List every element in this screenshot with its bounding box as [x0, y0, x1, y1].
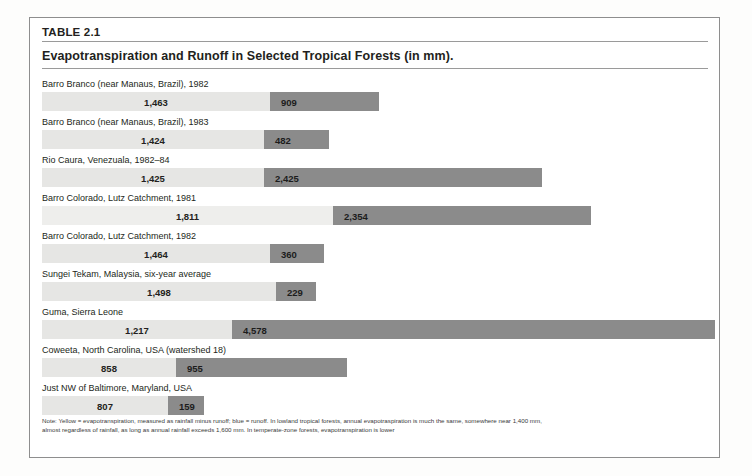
bar-track: 1,498229: [42, 282, 708, 301]
bar-track: 807159: [42, 396, 708, 415]
evapotranspiration-bar: 1,464: [42, 244, 270, 263]
bar-track: 1,2174,578: [42, 320, 708, 339]
chart-row: Coweeta, North Carolina, USA (watershed …: [42, 344, 708, 377]
note-line-2: almost regardless of rainfall, as long a…: [42, 425, 708, 434]
chart-rows: Barro Branco (near Manaus, Brazil), 1982…: [42, 78, 708, 415]
evapotranspiration-value: 1,425: [141, 172, 165, 183]
evapotranspiration-bar: 1,498: [42, 282, 276, 301]
chart-row: Barro Colorado, Lutz Catchment, 19821,46…: [42, 230, 708, 263]
evapotranspiration-bar: 1,425: [42, 168, 264, 187]
bar-track: 1,464360: [42, 244, 708, 263]
title-rule: [42, 68, 708, 69]
evapotranspiration-bar: 807: [42, 396, 168, 415]
runoff-bar: 2,425: [264, 168, 542, 187]
runoff-value: 909: [281, 96, 297, 107]
row-label: Rio Caura, Venezuala, 1982–84: [42, 154, 708, 168]
table-page: TABLE 2.1 Evapotranspiration and Runoff …: [0, 0, 752, 476]
bar-track: 858955: [42, 358, 708, 377]
chart-row: Sungei Tekam, Malaysia, six-year average…: [42, 268, 708, 301]
header-rule: [42, 41, 708, 42]
runoff-bar: 955: [176, 358, 347, 377]
row-label: Coweeta, North Carolina, USA (watershed …: [42, 344, 708, 358]
bar-track: 1,424482: [42, 130, 708, 149]
runoff-value: 159: [179, 400, 195, 411]
evapotranspiration-bar: 1,217: [42, 320, 232, 339]
evapotranspiration-bar: 1,463: [42, 92, 270, 111]
row-label: Barro Branco (near Manaus, Brazil), 1982: [42, 78, 708, 92]
chart-row: Just NW of Baltimore, Maryland, USA80715…: [42, 382, 708, 415]
evapotranspiration-bar: 1,424: [42, 130, 264, 149]
row-label: Barro Colorado, Lutz Catchment, 1982: [42, 230, 708, 244]
runoff-value: 4,578: [243, 324, 267, 335]
evapotranspiration-value: 858: [101, 362, 117, 373]
evapotranspiration-value: 1,217: [125, 324, 149, 335]
chart-row: Barro Colorado, Lutz Catchment, 19811,81…: [42, 192, 708, 225]
evapotranspiration-value: 1,498: [147, 286, 171, 297]
chart-row: Rio Caura, Venezuala, 1982–841,4252,425: [42, 154, 708, 187]
note-line-1: Note: Yellow = evapotranspiration, measu…: [42, 416, 708, 425]
runoff-value: 360: [281, 248, 297, 259]
table-content: TABLE 2.1 Evapotranspiration and Runoff …: [42, 26, 708, 450]
evapotranspiration-value: 1,463: [144, 96, 168, 107]
runoff-value: 2,354: [344, 210, 368, 221]
evapotranspiration-bar: 1,811: [42, 206, 333, 225]
table-panel: TABLE 2.1 Evapotranspiration and Runoff …: [29, 17, 720, 458]
runoff-bar: 159: [168, 396, 204, 415]
runoff-bar: 360: [270, 244, 324, 263]
runoff-value: 229: [287, 286, 303, 297]
table-note: Note: Yellow = evapotranspiration, measu…: [42, 416, 708, 434]
runoff-bar: 482: [264, 130, 329, 149]
row-label: Barro Colorado, Lutz Catchment, 1981: [42, 192, 708, 206]
runoff-bar: 2,354: [333, 206, 591, 225]
evapotranspiration-bar: 858: [42, 358, 176, 377]
row-label: Guma, Sierra Leone: [42, 306, 708, 320]
evapotranspiration-value: 1,811: [176, 210, 199, 221]
row-label: Just NW of Baltimore, Maryland, USA: [42, 382, 708, 396]
evapotranspiration-value: 1,464: [144, 248, 168, 259]
row-label: Sungei Tekam, Malaysia, six-year average: [42, 268, 708, 282]
evapotranspiration-value: 807: [97, 400, 113, 411]
chart-row: Barro Branco (near Manaus, Brazil), 1983…: [42, 116, 708, 149]
evapotranspiration-value: 1,424: [141, 134, 165, 145]
bar-track: 1,4252,425: [42, 168, 708, 187]
runoff-bar: 4,578: [232, 320, 715, 339]
chart-row: Barro Branco (near Manaus, Brazil), 1982…: [42, 78, 708, 111]
table-title: Evapotranspiration and Runoff in Selecte…: [42, 49, 708, 68]
table-number: TABLE 2.1: [42, 26, 708, 41]
runoff-bar: 909: [270, 92, 379, 111]
runoff-value: 955: [187, 362, 203, 373]
chart-row: Guma, Sierra Leone1,2174,578: [42, 306, 708, 339]
runoff-value: 2,425: [275, 172, 299, 183]
runoff-bar: 229: [276, 282, 316, 301]
bar-track: 1,463909: [42, 92, 708, 111]
row-label: Barro Branco (near Manaus, Brazil), 1983: [42, 116, 708, 130]
bar-track: 1,8112,354: [42, 206, 708, 225]
runoff-value: 482: [275, 134, 291, 145]
